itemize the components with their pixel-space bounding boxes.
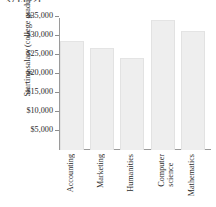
bar-chart: Starting salary (college graduates) $35,… <box>0 0 216 207</box>
y-tick-label: $15,000 <box>26 86 53 97</box>
x-tick-label: Humanities <box>126 154 135 192</box>
bar[interactable] <box>151 20 175 150</box>
y-tick-mark <box>55 16 59 17</box>
y-tick-label: $10,000 <box>26 105 53 116</box>
y-tick-label: $35,000 <box>26 10 53 21</box>
y-tick-label: $30,000 <box>26 29 53 40</box>
y-tick-label: $5,000 <box>30 124 53 135</box>
x-tick-label: Marketing <box>96 154 105 188</box>
y-tick-label: $20,000 <box>26 67 53 78</box>
plot-area <box>59 18 209 149</box>
x-tick-label: Accounting <box>66 154 75 192</box>
x-tick-label: Mathematics <box>187 154 196 196</box>
bar[interactable] <box>120 58 144 150</box>
y-tick-label: $25,000 <box>26 48 53 59</box>
bar[interactable] <box>181 31 205 150</box>
x-tick-label: Computer science <box>157 154 175 187</box>
bar[interactable] <box>90 48 114 150</box>
bar[interactable] <box>60 41 84 150</box>
